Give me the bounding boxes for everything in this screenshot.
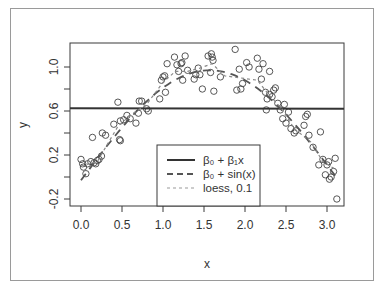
data-point bbox=[199, 86, 205, 92]
data-point bbox=[217, 74, 223, 80]
data-point bbox=[301, 122, 307, 128]
data-point bbox=[211, 88, 217, 94]
data-point bbox=[317, 129, 323, 135]
data-point bbox=[283, 120, 289, 126]
y-axis-label: y bbox=[16, 122, 30, 128]
data-point bbox=[266, 68, 272, 74]
data-point bbox=[78, 156, 84, 162]
chart: 0.00.51.01.52.02.53.0-0.20.20.61.0 β₀ + … bbox=[0, 0, 385, 295]
data-point bbox=[115, 99, 121, 105]
data-point bbox=[302, 113, 308, 119]
figure-caption bbox=[0, 289, 385, 295]
data-point bbox=[334, 196, 340, 202]
legend-label: β₀ + sin(x) bbox=[203, 168, 256, 180]
y-tick-label: 1.0 bbox=[47, 58, 61, 75]
data-point bbox=[285, 109, 291, 115]
x-tick-label: 1.0 bbox=[155, 218, 172, 232]
x-tick-label: 0.0 bbox=[73, 218, 90, 232]
data-point bbox=[164, 61, 170, 67]
data-point bbox=[316, 162, 322, 168]
data-point bbox=[260, 61, 266, 67]
x-axis-label: x bbox=[204, 257, 210, 271]
y-tick-label: 0.2 bbox=[47, 146, 61, 163]
data-point bbox=[157, 96, 163, 102]
data-point bbox=[89, 134, 95, 140]
data-point bbox=[271, 87, 277, 93]
x-tick-label: 1.5 bbox=[196, 218, 213, 232]
data-point bbox=[171, 54, 177, 60]
data-point bbox=[161, 73, 167, 79]
x-tick-label: 0.5 bbox=[114, 218, 131, 232]
x-tick-label: 2.5 bbox=[278, 218, 295, 232]
data-point bbox=[272, 85, 278, 91]
data-point bbox=[197, 72, 203, 78]
data-point bbox=[162, 89, 168, 95]
data-point bbox=[256, 66, 262, 72]
data-point bbox=[111, 121, 117, 127]
legend-label: β₀ + β₁x bbox=[203, 154, 244, 166]
data-point bbox=[258, 76, 264, 82]
y-tick-label: -0.2 bbox=[47, 188, 61, 209]
legend: β₀ + β₁xβ₀ + sin(x)loess, 0.1 bbox=[157, 145, 260, 206]
data-point bbox=[133, 120, 139, 126]
data-point bbox=[234, 87, 240, 93]
x-tick-label: 2.0 bbox=[237, 218, 254, 232]
y-tick-label: 0.6 bbox=[47, 102, 61, 119]
data-point bbox=[326, 176, 332, 182]
data-point bbox=[332, 155, 338, 161]
data-point bbox=[280, 116, 286, 122]
x-tick-label: 3.0 bbox=[319, 218, 336, 232]
data-point bbox=[232, 46, 238, 52]
data-point bbox=[304, 111, 310, 117]
data-point bbox=[182, 53, 188, 59]
data-point bbox=[254, 55, 260, 61]
data-point bbox=[191, 76, 197, 82]
data-point bbox=[281, 101, 287, 107]
data-point bbox=[236, 66, 242, 72]
linear-fit-line bbox=[70, 108, 344, 109]
legend-label: loess, 0.1 bbox=[203, 182, 252, 194]
